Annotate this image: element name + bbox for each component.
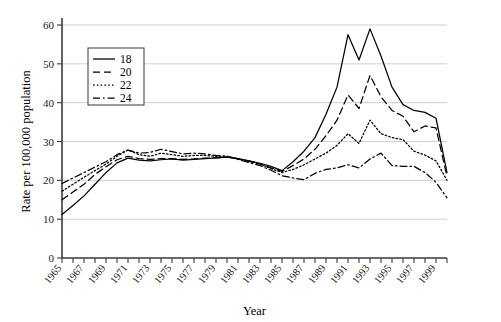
- y-tick-label: 50: [43, 58, 55, 70]
- x-tick-label: 1965: [42, 262, 64, 285]
- x-tick-label: 1987: [284, 262, 306, 285]
- x-tick-label: 1981: [218, 262, 240, 285]
- x-tick-label: 1999: [416, 262, 438, 285]
- legend-label-22: 22: [120, 79, 132, 91]
- y-tick-label: 20: [43, 174, 55, 186]
- legend-label-20: 20: [120, 66, 132, 78]
- y-axis-title: Rate per 100,000 population: [19, 70, 33, 213]
- x-tick-label: 1971: [108, 262, 130, 285]
- legend-box: [88, 48, 144, 105]
- y-tick-label: 0: [49, 252, 55, 264]
- chart-figure: 0102030405060196519671969197119731975197…: [0, 0, 501, 322]
- x-tick-label: 1975: [152, 262, 174, 285]
- x-tick-label: 1977: [174, 262, 196, 285]
- y-tick-label: 40: [43, 97, 55, 109]
- x-tick-label: 1973: [130, 262, 152, 285]
- y-tick-label: 10: [43, 213, 55, 225]
- x-tick-label: 1989: [306, 262, 328, 285]
- y-tick-label: 60: [43, 19, 55, 31]
- x-tick-label: 1983: [240, 262, 262, 285]
- x-tick-label: 1979: [196, 262, 218, 285]
- x-tick-label: 1985: [262, 262, 284, 285]
- line-chart: 0102030405060196519671969197119731975197…: [0, 0, 501, 322]
- x-tick-label: 1969: [86, 262, 108, 285]
- legend-label-24: 24: [120, 92, 132, 104]
- x-tick-label: 1993: [350, 262, 372, 285]
- y-tick-label: 30: [43, 136, 55, 148]
- legend-label-18: 18: [120, 53, 132, 65]
- x-axis-title: Year: [243, 304, 267, 318]
- series-line-24: [62, 149, 447, 198]
- x-tick-label: 1995: [372, 262, 394, 285]
- x-tick-label: 1967: [64, 262, 86, 285]
- x-tick-label: 1991: [328, 262, 350, 285]
- x-tick-label: 1997: [394, 262, 416, 285]
